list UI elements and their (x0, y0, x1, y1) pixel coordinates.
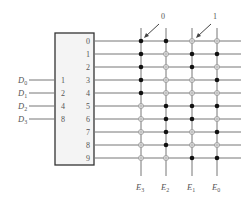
output-pin-label: 3 (86, 76, 90, 85)
input-label-d3: D3 (17, 114, 27, 125)
input-label-d2: D2 (17, 101, 27, 112)
column-label-e0: E0 (211, 182, 220, 193)
filled-dot (215, 156, 220, 161)
filled-dot (139, 52, 144, 57)
filled-dot (190, 65, 195, 70)
filled-dot (164, 117, 169, 122)
annotation-label-1: 1 (213, 12, 217, 21)
annotation-arrow-1 (198, 24, 211, 36)
column-label-e3: E3 (135, 182, 144, 193)
input-pin-weight: 4 (61, 102, 65, 111)
encoder-diagram: 0123456789D01D12D24D38E3E2E1E001 (0, 0, 251, 208)
output-pin-label: 7 (86, 128, 90, 137)
output-pin-label: 1 (86, 50, 90, 59)
annotation-label-0: 0 (161, 12, 165, 21)
filled-dot (164, 130, 169, 135)
filled-dot (190, 156, 195, 161)
filled-dot (139, 78, 144, 83)
output-pin-label: 2 (86, 63, 90, 72)
output-pin-label: 6 (86, 115, 90, 124)
filled-dot (215, 52, 220, 57)
input-pin-weight: 8 (61, 115, 65, 124)
input-pin-weight: 1 (61, 76, 65, 85)
input-label-d1: D1 (17, 88, 27, 99)
column-label-e2: E2 (160, 182, 169, 193)
filled-dot (164, 143, 169, 148)
filled-dot (164, 39, 169, 44)
filled-dot (139, 91, 144, 96)
output-pin-label: 9 (86, 154, 90, 163)
output-pin-label: 5 (86, 102, 90, 111)
filled-dot (164, 104, 169, 109)
filled-dot (215, 78, 220, 83)
filled-dot (190, 104, 195, 109)
input-pin-weight: 2 (61, 89, 65, 98)
output-pin-label: 8 (86, 141, 90, 150)
column-label-e1: E1 (186, 182, 195, 193)
filled-dot (190, 117, 195, 122)
annotation-arrow-0 (146, 24, 159, 36)
output-pin-label: 0 (86, 37, 90, 46)
filled-dot (215, 104, 220, 109)
output-pin-label: 4 (86, 89, 90, 98)
filled-dot (139, 65, 144, 70)
input-label-d0: D0 (17, 75, 27, 86)
filled-dot (190, 52, 195, 57)
filled-dot (139, 39, 144, 44)
filled-dot (215, 130, 220, 135)
